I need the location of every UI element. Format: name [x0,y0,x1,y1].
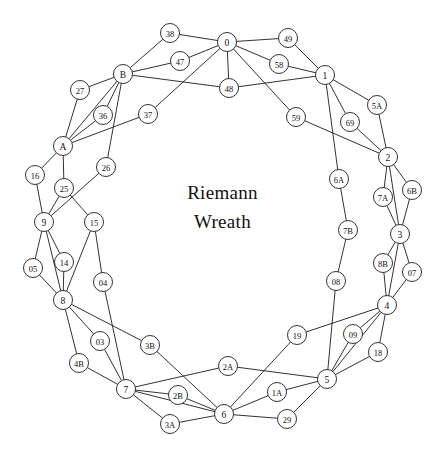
graph-edge [384,272,386,295]
graph-edge [233,415,277,419]
graph-edge [328,290,335,369]
graph-edge [65,309,76,354]
node-circle [169,386,188,405]
graph-node[interactable]: 36 [94,106,113,125]
graph-node[interactable]: 2B [169,386,188,405]
graph-edge [388,242,395,255]
graph-node[interactable]: 14 [55,253,74,272]
graph-node[interactable]: 04 [94,273,113,292]
graph-edge [329,83,345,113]
graph-edge [403,243,409,263]
node-circle [341,113,360,132]
graph-edge [179,34,217,40]
node-circle [54,137,73,156]
graph-node[interactable]: 3A [161,415,180,434]
node-circle [94,273,113,292]
graph-edge [288,66,316,73]
graph-edge [357,128,381,150]
graph-node[interactable]: 37 [139,105,158,124]
graph-edge [295,45,319,69]
node-circle [97,158,116,177]
node-circle [318,370,337,389]
graph-node[interactable]: 03 [91,332,110,351]
graph-node[interactable]: 38 [161,24,180,43]
node-circle [161,415,180,434]
graph-node[interactable]: 2 [379,148,398,167]
graph-edge [227,51,228,78]
node-circle [279,29,298,48]
graph-node[interactable]: 8B [374,254,393,273]
node-circle [327,272,346,291]
graph-node[interactable]: 47 [171,52,190,71]
node-circle [55,253,74,272]
graph-edge [40,275,57,293]
graph-edge [237,367,317,378]
graph-node[interactable]: 1 [316,66,335,85]
graph-node[interactable]: 7 [117,380,136,399]
graph-node[interactable]: 08 [327,272,346,291]
node-circle [378,296,397,315]
graph-edge [238,76,315,86]
graph-node[interactable]: 26 [97,158,116,177]
node-circle [161,24,180,43]
graph-node[interactable]: 8 [54,291,73,310]
graph-node[interactable]: 29 [278,410,297,429]
graph-node[interactable]: 27 [71,81,90,100]
graph-edge [71,121,96,140]
graph-edge [236,46,271,61]
node-circle [117,380,136,399]
graph-node[interactable]: 48 [220,79,239,98]
title-line-1: Riemann [0,178,445,207]
graph-edge [87,368,117,385]
graph-edge [132,63,170,72]
node-circle [114,65,133,84]
graph-node[interactable]: 69 [341,113,360,132]
graph-edge [135,390,168,394]
graph-node[interactable]: 19 [288,326,307,345]
graph-edge [333,80,369,101]
node-circle [278,410,297,429]
node-circle [54,291,73,310]
graph-edge [380,314,385,342]
graph-node[interactable]: 0 [218,33,237,52]
graph-edge [132,75,219,87]
graph-node[interactable]: 18 [369,343,388,362]
node-circle [220,79,239,98]
graph-node[interactable]: 5 [318,370,337,389]
graph-edge [130,39,163,68]
graph-node[interactable]: 49 [279,29,298,48]
graph-edge [89,77,114,86]
graph-edge [189,46,218,58]
title-line-2: Wreath [0,207,445,236]
graph-edge [335,356,369,374]
graph-node[interactable]: 3B [141,336,160,355]
graph-node[interactable]: 59 [287,108,306,127]
node-circle [24,259,43,278]
graph-node[interactable]: B [114,65,133,84]
graph-node[interactable]: 4 [378,296,397,315]
node-circle [344,325,363,344]
graph-edge [187,399,215,411]
graph-node[interactable]: A [54,137,73,156]
node-circle [171,52,190,71]
graph-edge [306,308,378,332]
graph-edge [133,395,162,418]
node-circle [219,357,238,376]
node-circle [91,332,110,351]
node-circle [71,81,90,100]
graph-node[interactable]: 09 [344,325,363,344]
node-circle [268,383,287,402]
node-circle [215,405,234,424]
graph-node[interactable]: 4B [70,354,89,373]
graph-node[interactable]: 6 [215,405,234,424]
graph-edge [326,84,337,169]
graph-node[interactable]: 1A [268,383,287,402]
graph-node[interactable]: 58 [270,55,289,74]
graph-node[interactable]: 2A [219,357,238,376]
graph-edge [135,368,218,387]
graph-node[interactable]: 05 [24,259,43,278]
graph-edge [95,231,101,272]
graph-node[interactable]: 5A [368,96,387,115]
graph-node[interactable]: 07 [403,263,422,282]
node-circle [369,343,388,362]
